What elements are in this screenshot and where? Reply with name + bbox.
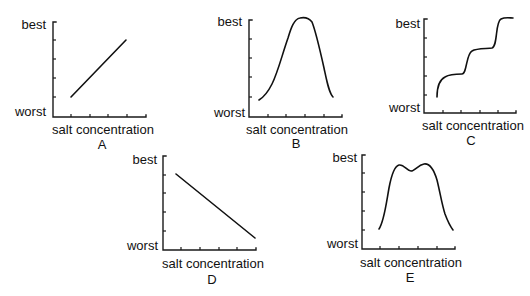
y-top-label: best <box>132 152 157 167</box>
y-top-label: best <box>332 150 357 165</box>
x-axis-label: salt concentration <box>422 118 524 133</box>
response-curve <box>259 18 333 100</box>
response-curve <box>379 164 453 230</box>
panel-letter: C <box>466 133 475 148</box>
panel-letter: A <box>98 137 107 152</box>
panel-letter: E <box>406 270 415 285</box>
y-bottom-label: worst <box>126 238 158 253</box>
panel-letter: B <box>292 136 301 151</box>
x-axis-label: salt concentration <box>162 256 264 271</box>
y-bottom-label: worst <box>14 104 46 119</box>
axes <box>249 20 342 117</box>
x-axis-label: salt concentration <box>52 122 154 137</box>
panel-e: bestworstsalt concentrationE <box>326 150 462 285</box>
axes <box>53 22 146 117</box>
y-top-label: best <box>21 17 46 32</box>
y-bottom-label: worst <box>213 105 245 120</box>
axes <box>424 19 516 113</box>
response-curve <box>176 174 255 238</box>
response-curve <box>437 18 513 97</box>
response-curve <box>71 40 126 97</box>
x-axis-label: salt concentration <box>360 255 462 270</box>
panel-letter: D <box>207 272 216 287</box>
panel-d: bestworstsalt concentrationD <box>126 152 264 287</box>
panel-c: bestworstsalt concentrationC <box>388 16 524 148</box>
y-top-label: best <box>395 16 420 31</box>
panel-a: bestworstsalt concentrationA <box>14 17 154 152</box>
axes <box>163 156 256 250</box>
x-axis-label: salt concentration <box>246 122 348 137</box>
panel-b: bestworstsalt concentrationB <box>213 14 348 151</box>
y-top-label: best <box>217 14 242 29</box>
y-bottom-label: worst <box>388 100 420 115</box>
y-bottom-label: worst <box>326 236 358 251</box>
salt-concentration-figure: bestworstsalt concentrationAbestworstsal… <box>0 0 530 296</box>
